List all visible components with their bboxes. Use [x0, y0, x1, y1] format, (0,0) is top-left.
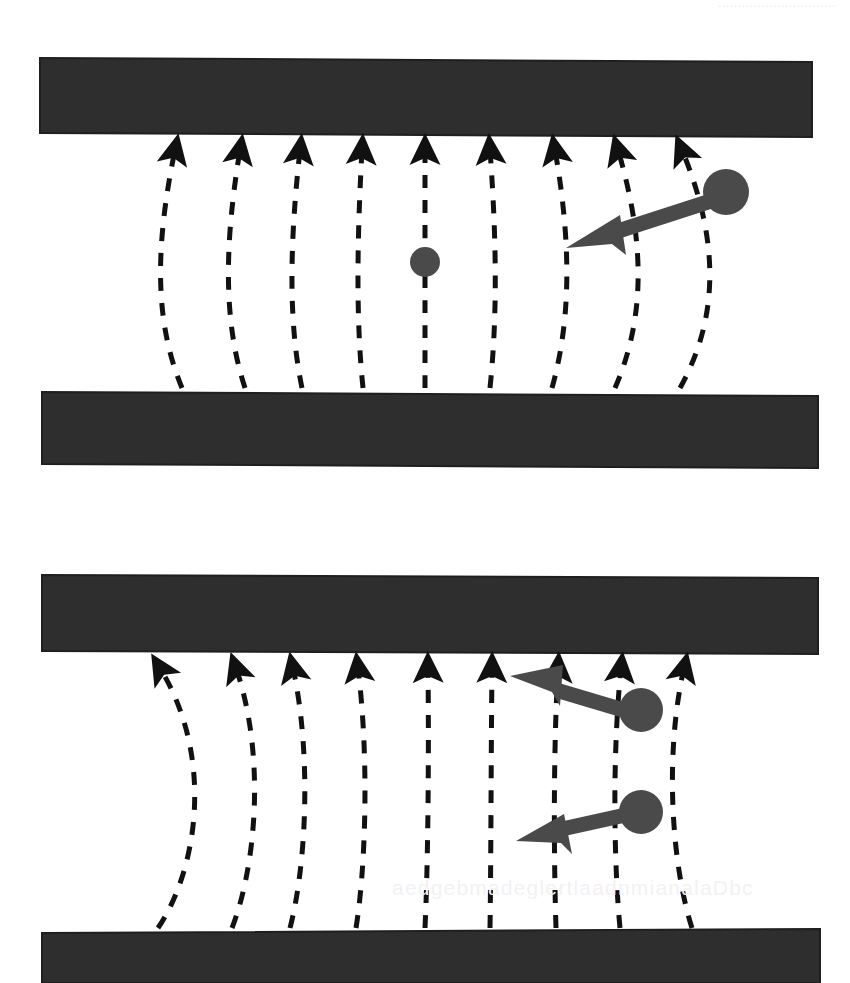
field-line: [615, 150, 638, 388]
field-line: [290, 668, 305, 928]
figure-single-charge: [0, 0, 850, 520]
field-line: [672, 668, 692, 928]
force-vector-upper-charge: [510, 665, 630, 712]
charges-group: [619, 688, 663, 834]
charge-lower: [619, 790, 663, 834]
force-vectors-group: [510, 665, 630, 854]
charges-group: [410, 169, 749, 277]
force-vector-right-charge: [566, 200, 714, 255]
field-line: [232, 668, 255, 928]
charge-upper: [619, 688, 663, 732]
field-line: [358, 150, 363, 388]
force-vector-head-icon: [566, 215, 626, 255]
force-vector-lower-charge: [516, 814, 630, 854]
bottom-plate: [42, 392, 818, 468]
field-line: [228, 150, 245, 388]
source-charge-right: [703, 169, 749, 215]
field-line: [356, 668, 365, 928]
diagram-page: ..............................: [0, 0, 850, 983]
field-line: [425, 668, 428, 928]
field-line: [292, 150, 302, 388]
field-line: [161, 150, 182, 388]
field-line: [552, 150, 567, 388]
force-vector-shaft: [612, 200, 714, 233]
figure-two-charges: [0, 520, 850, 983]
field-line: [554, 668, 558, 928]
force-vectors-group: [566, 200, 714, 255]
test-charge-center: [410, 247, 440, 277]
top-plate: [42, 575, 818, 654]
field-line: [490, 150, 495, 388]
field-line: [158, 668, 195, 928]
bottom-plate: [42, 929, 820, 983]
top-plate: [40, 58, 812, 137]
force-vector-head-icon: [516, 814, 572, 854]
field-line: [490, 668, 492, 928]
plates-group: [42, 575, 820, 983]
